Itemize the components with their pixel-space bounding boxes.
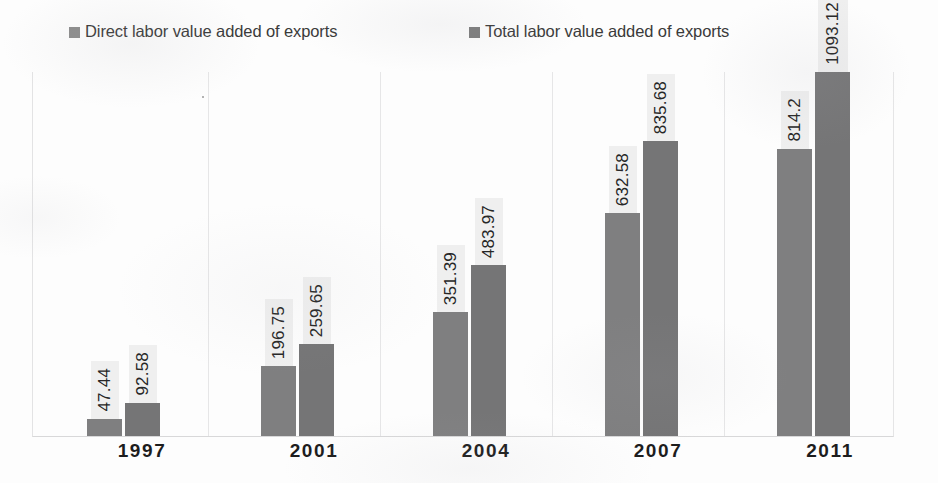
legend-item-label: Direct labor value added of exports [85,22,337,41]
bar-value-text: 814.2 [786,98,803,142]
x-tick-1997: 1997 [72,440,212,462]
bar-value-text: 196.75 [270,306,287,359]
bar-value-label: 483.97 [475,198,503,265]
legend-item-total-labor: Total labor value added of exports [469,22,729,41]
x-tick-2001: 2001 [244,440,384,462]
bar-2011-direct[interactable]: 814.2 [777,149,812,436]
bar-value-label: 632.58 [609,146,637,213]
bar-fill [777,149,812,436]
legend-item-label: Total labor value added of exports [485,22,729,41]
chart-legend: Direct labor value added of exports Tota… [0,20,938,48]
bar-value-label: 259.65 [303,277,331,344]
bar-2001-direct[interactable]: 196.75 [261,366,296,436]
bar-fill [299,344,334,436]
bar-value-text: 92.58 [134,352,151,396]
x-tick-2011: 2011 [760,440,900,462]
bar-value-label: 47.44 [91,361,119,419]
bar-fill [605,213,640,436]
bar-value-label: 814.2 [781,91,809,149]
bar-2007-direct[interactable]: 632.58 [605,213,640,436]
bar-fill [125,403,160,436]
bar-value-text: 351.39 [442,252,459,305]
square-marker-icon [469,27,480,38]
chart-plot-area: 47.44 92.58 196.75 259.65 [32,72,894,437]
bar-value-text: 483.97 [480,205,497,258]
bar-value-label: 351.39 [437,245,465,312]
bar-fill [433,312,468,436]
bar-group-2004: 351.39 483.97 [381,72,552,436]
bar-fill [87,419,122,436]
legend-item-direct-labor: Direct labor value added of exports [69,22,337,41]
bar-1997-direct[interactable]: 47.44 [87,419,122,436]
x-tick-2007: 2007 [588,440,728,462]
bar-group-1997: 47.44 92.58 [33,72,208,436]
bar-value-text: 47.44 [96,368,113,412]
x-tick-2004: 2004 [416,440,556,462]
bar-group-2007: 632.58 835.68 [553,72,724,436]
bar-value-text: 259.65 [308,284,325,337]
bar-fill [261,366,296,436]
bar-2004-direct[interactable]: 351.39 [433,312,468,436]
chart-x-axis: 1997 2001 2004 2007 2011 [32,440,892,474]
bar-fill [643,141,678,436]
bar-1997-total[interactable]: 92.58 [125,403,160,436]
bar-group-2001: 196.75 259.65 [209,72,380,436]
bar-value-label: 196.75 [265,299,293,366]
bar-value-text: 835.68 [652,81,669,134]
bar-value-label: 835.68 [647,74,675,141]
bar-2004-total[interactable]: 483.97 [471,265,506,436]
bar-value-text: 632.58 [614,153,631,206]
bar-2001-total[interactable]: 259.65 [299,344,334,436]
bar-group-2011: 814.2 1093.12 [725,72,893,436]
square-marker-icon [69,27,80,38]
bar-2007-total[interactable]: 835.68 [643,141,678,436]
bar-2011-total[interactable]: 1093.12 [815,72,850,436]
bar-fill [815,72,850,436]
bar-fill [471,265,506,436]
bar-value-label: 92.58 [129,345,157,403]
